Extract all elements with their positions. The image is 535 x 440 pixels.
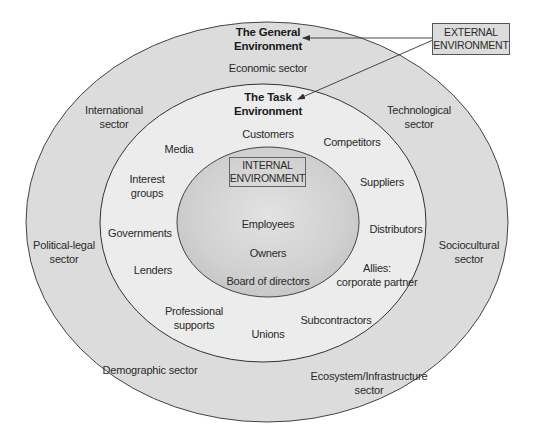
task-environment-title: The Task Environment xyxy=(234,90,302,118)
allies-label: Allies: corporate partner xyxy=(337,261,418,289)
ecosystem-line2: sector xyxy=(311,383,428,397)
internal-environment-box: INTERNAL ENVIRONMENT xyxy=(229,157,306,187)
lenders-label: Lenders xyxy=(134,263,172,277)
allies-line1: Allies: xyxy=(337,261,418,275)
general-title-line1: The General xyxy=(234,25,302,39)
interest-line1: Interest xyxy=(129,172,164,186)
owners-label: Owners xyxy=(250,246,287,260)
economic-sector-label: Economic sector xyxy=(229,61,307,75)
task-title-line2: Environment xyxy=(234,104,302,118)
competitors-label: Competitors xyxy=(323,135,380,149)
technological-line1: Technological xyxy=(387,103,451,117)
sociocultural-line2: sector xyxy=(439,252,499,266)
professional-line1: Professional xyxy=(165,304,223,318)
distributors-label: Distributors xyxy=(369,222,422,236)
international-line1: International xyxy=(85,103,143,117)
governments-label: Governments xyxy=(108,226,172,240)
allies-line2: corporate partner xyxy=(337,275,418,289)
media-label: Media xyxy=(165,142,194,156)
unions-label: Unions xyxy=(251,327,284,341)
political-legal-sector-label: Political-legal sector xyxy=(33,238,95,266)
political-line1: Political-legal xyxy=(33,238,95,252)
internal-box-line2: ENVIRONMENT xyxy=(230,172,305,185)
board-of-directors-label: Board of directors xyxy=(226,274,309,288)
technological-line2: sector xyxy=(387,117,451,131)
interest-line2: groups xyxy=(129,186,164,200)
professional-line2: supports xyxy=(165,318,223,332)
ecosystem-infrastructure-sector-label: Ecosystem/Infrastructure sector xyxy=(311,369,428,397)
subcontractors-label: Subcontractors xyxy=(300,313,371,327)
sociocultural-line1: Sociocultural xyxy=(439,238,499,252)
sociocultural-sector-label: Sociocultural sector xyxy=(439,238,499,266)
general-title-line2: Environment xyxy=(234,39,302,53)
task-title-line1: The Task xyxy=(234,90,302,104)
demographic-sector-label: Demographic sector xyxy=(103,363,198,377)
external-environment-box: EXTERNAL ENVIRONMENT xyxy=(432,23,510,55)
interest-groups-label: Interest groups xyxy=(129,172,164,200)
international-line2: sector xyxy=(85,117,143,131)
general-environment-title: The General Environment xyxy=(234,25,302,53)
external-box-line1: EXTERNAL xyxy=(444,26,498,39)
suppliers-label: Suppliers xyxy=(360,175,404,189)
customers-label: Customers xyxy=(242,127,293,141)
technological-sector-label: Technological sector xyxy=(387,103,451,131)
ecosystem-line1: Ecosystem/Infrastructure xyxy=(311,369,428,383)
employees-label: Employees xyxy=(242,217,295,231)
professional-supports-label: Professional supports xyxy=(165,304,223,332)
external-box-line2: ENVIRONMENT xyxy=(433,39,508,52)
political-line2: sector xyxy=(33,252,95,266)
internal-box-line1: INTERNAL xyxy=(242,159,292,172)
international-sector-label: International sector xyxy=(85,103,143,131)
